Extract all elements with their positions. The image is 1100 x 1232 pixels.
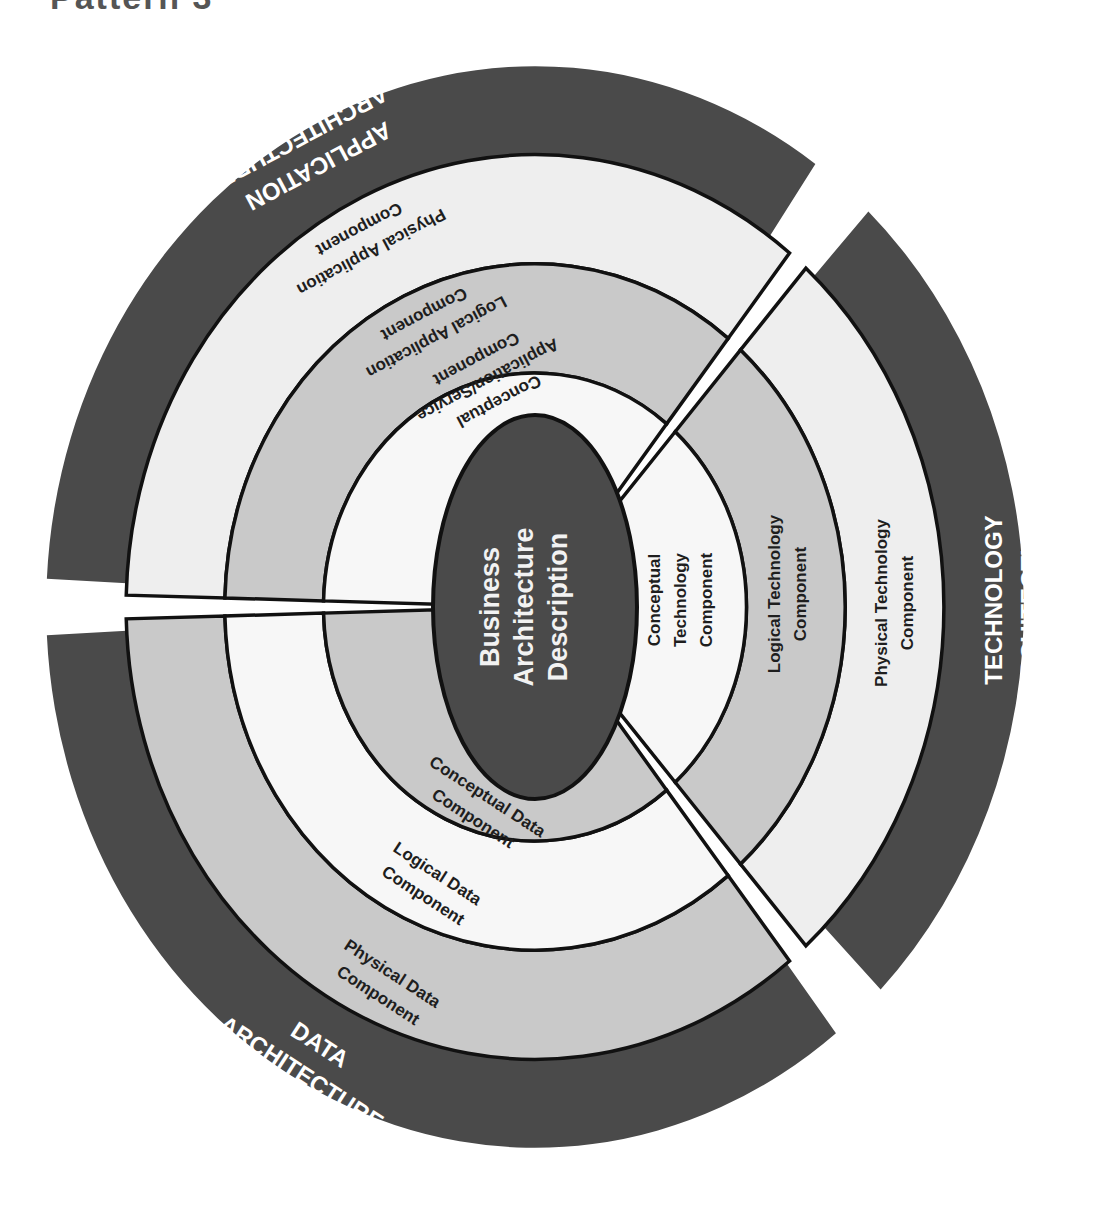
tech-logical-line-1: Logical Technology xyxy=(765,514,784,673)
tech-logical-line-2: Component xyxy=(791,546,810,641)
architecture-diagram: Business Architecture Description Concep… xyxy=(0,0,1100,1232)
tech-conceptual-label: Conceptual Technology Component xyxy=(645,552,716,647)
tech-conceptual-line-2: Technology xyxy=(671,552,690,647)
core-line-2: Architecture xyxy=(509,527,539,686)
core-line-3: Description xyxy=(543,533,573,682)
tech-physical-line-2: Component xyxy=(898,555,917,650)
tech-conceptual-line-1: Conceptual xyxy=(645,554,664,647)
core-label: Business Architecture Description xyxy=(475,527,573,686)
tech-arch-line-2: Architecture xyxy=(1016,505,1043,694)
tech-physical-line-1: Physical Technology xyxy=(872,519,891,687)
tech-arch-line-1: Technology xyxy=(980,515,1007,684)
tech-conceptual-line-3: Component xyxy=(697,552,716,647)
core-line-1: Business xyxy=(475,547,505,667)
